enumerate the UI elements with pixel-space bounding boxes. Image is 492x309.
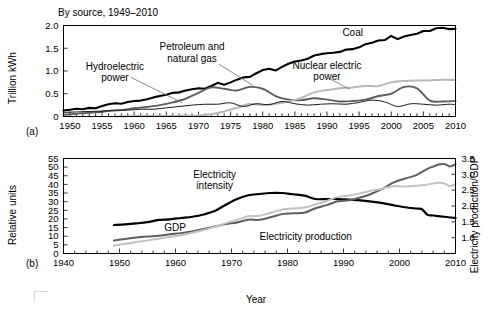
- chart-b-y-ticks: 0510152025303540455055: [48, 153, 68, 259]
- chart-a-annotation-text: Petroleum and: [160, 41, 225, 52]
- chart-a-annotation-text: Hydroelectric: [86, 61, 144, 72]
- chart-b-x-axis-label: Year: [246, 294, 267, 305]
- chart-b-svg: Relative units Electricity production/GD…: [0, 150, 492, 309]
- chart-a-y-ticks: 00.51.01.52.0: [45, 20, 67, 122]
- chart-a-y-tick-label: 0: [53, 111, 58, 122]
- chart-b-x-tick-label: 1970: [221, 257, 242, 268]
- chart-b-x-tick-label: 1990: [333, 257, 354, 268]
- chart-a-annotation-text: power: [101, 72, 129, 83]
- chart-b-y2-tick-label: 1.0: [462, 232, 475, 243]
- chart-b-y2-tick-label: 2.5: [462, 184, 475, 195]
- chart-a-leader-line: [131, 77, 182, 102]
- chart-a-x-tick-label: 2005: [413, 120, 434, 131]
- chart-b-annotation-text: intensity: [196, 180, 233, 191]
- chart-a-annotation-text: natural gas: [167, 53, 216, 64]
- chart-b-x-ticks: 19401950196019701980199020002010: [53, 249, 466, 268]
- chart-b-x-tick-label: 1980: [277, 257, 298, 268]
- chart-a-x-tick-label: 1995: [349, 120, 370, 131]
- chart-b-y-axis-label: Relative units: [7, 185, 18, 245]
- chart-b-annotation-text: Electricity: [193, 169, 236, 180]
- chart-a-x-tick-label: 1960: [124, 120, 145, 131]
- chart-b-panel-tag: (b): [26, 258, 38, 269]
- chart-a-x-tick-label: 1975: [220, 120, 241, 131]
- chart-a-annotation-text: Coal: [342, 27, 363, 38]
- chart-a-x-tick-label: 1965: [156, 120, 177, 131]
- chart-a-x-tick-label: 1970: [188, 120, 209, 131]
- chart-a-annotation-text: Nuclear electric: [293, 60, 362, 71]
- chart-a-annotation: Petroleum andnatural gas: [160, 41, 225, 64]
- chart-b-x-tick-label: 2010: [445, 257, 466, 268]
- chart-b-y2-tick-label: 1.5: [462, 216, 475, 227]
- chart-b-y2-tick-label: 3.0: [462, 169, 475, 180]
- chart-b-annotation: Electricityintensity: [193, 169, 236, 191]
- chart-a-x-ticks: 1950195519601965197019751980198519901995…: [59, 112, 466, 131]
- chart-panel-b: Relative units Electricity production/GD…: [0, 150, 492, 309]
- chart-a-x-tick-label: 2000: [381, 120, 402, 131]
- figure-container: By source, 1949–2010 Trillion kWh (a) 00…: [0, 0, 492, 309]
- chart-a-x-tick-label: 1980: [252, 120, 273, 131]
- chart-a-annotation: Nuclear electricpower: [293, 60, 362, 83]
- chart-a-x-tick-label: 1950: [59, 120, 80, 131]
- chart-a-annotation-text: power: [313, 71, 341, 82]
- chart-b-annotation: Electricity production: [260, 231, 352, 242]
- chart-a-y-tick-label: 0.5: [45, 88, 58, 99]
- chart-a-x-tick-label: 1985: [284, 120, 305, 131]
- chart-a-leader-line: [219, 64, 253, 85]
- chart-a-y-axis-label: Trillion kWh: [7, 52, 18, 104]
- chart-a-panel-tag: (a): [26, 126, 38, 137]
- chart-a-y-tick-label: 1.5: [45, 43, 58, 54]
- chart-a-x-tick-label: 1955: [91, 120, 112, 131]
- chart-b-x-tick-label: 1960: [165, 257, 186, 268]
- chart-b-annotation-text: Electricity production: [260, 231, 352, 242]
- chart-a-series-hydroelectric-power: [64, 100, 456, 112]
- chart-b-y2-tick-label: 2.0: [462, 200, 475, 211]
- chart-b-annotation: GDP: [164, 222, 186, 233]
- chart-b-annotation-text: GDP: [164, 222, 186, 233]
- crop-corner-mark: [34, 291, 48, 301]
- chart-a-series-nuclear-electric-power: [115, 80, 456, 117]
- chart-b-y-tick-label: 55: [48, 153, 59, 164]
- chart-a-x-tick-label: 1990: [316, 120, 337, 131]
- chart-b-x-tick-label: 2000: [389, 257, 410, 268]
- chart-b-x-tick-label: 1940: [53, 257, 74, 268]
- chart-b-x-tick-label: 1950: [109, 257, 130, 268]
- chart-b-y2-tick-label: 3.5: [462, 153, 475, 164]
- chart-a-annotation: Coal: [342, 27, 363, 38]
- chart-panel-a: By source, 1949–2010 Trillion kWh (a) 00…: [0, 0, 492, 150]
- chart-a-title: By source, 1949–2010: [58, 7, 159, 18]
- chart-a-x-tick-label: 2010: [445, 120, 466, 131]
- chart-a-svg: By source, 1949–2010 Trillion kWh (a) 00…: [0, 0, 492, 150]
- chart-a-y-tick-label: 1.0: [45, 65, 58, 76]
- chart-a-y-tick-label: 2.0: [45, 20, 58, 31]
